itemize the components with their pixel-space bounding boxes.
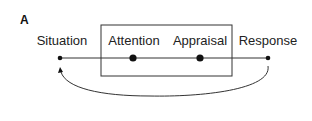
node-situation <box>58 56 63 61</box>
node-attention <box>129 54 136 61</box>
attention-appraisal-box <box>101 25 232 76</box>
feedback-arrow <box>61 66 268 96</box>
node-response <box>266 56 271 61</box>
node-appraisal <box>196 54 203 61</box>
modal-model-diagram <box>0 0 312 121</box>
arrowhead-icon <box>58 67 63 73</box>
